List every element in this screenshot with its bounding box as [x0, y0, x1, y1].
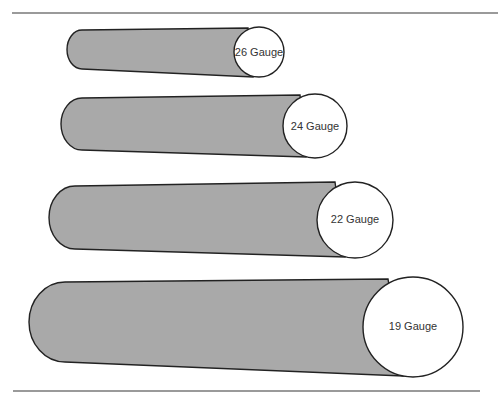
gauge-label: 22 Gauge [331, 213, 379, 225]
cylinder-body [49, 182, 345, 257]
cylinder-22-gauge: 22 Gauge [49, 182, 393, 258]
cylinder-body [67, 28, 253, 77]
cylinder-body [61, 95, 306, 157]
gauge-label: 26 Gauge [235, 46, 283, 58]
gauge-label: 19 Gauge [389, 320, 437, 332]
cylinder-body [29, 279, 403, 376]
gauge-diagram: 26 Gauge 24 Gauge 22 Gauge 19 Gauge [0, 0, 498, 400]
cylinder-24-gauge: 24 Gauge [61, 94, 347, 158]
cylinder-19-gauge: 19 Gauge [29, 277, 463, 377]
cylinder-26-gauge: 26 Gauge [67, 27, 284, 77]
gauge-label: 24 Gauge [291, 120, 339, 132]
